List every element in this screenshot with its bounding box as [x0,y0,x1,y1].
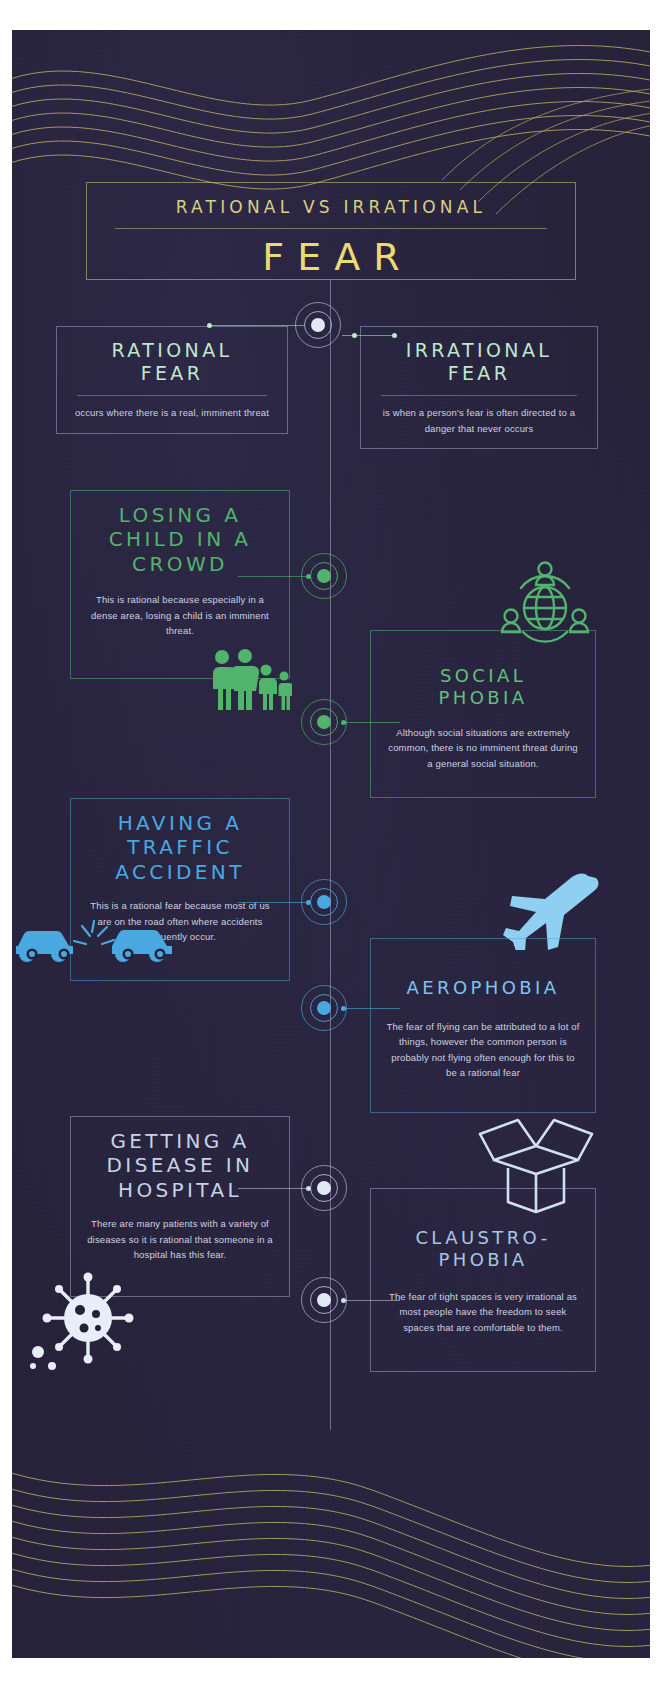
poster-canvas: RATIONAL VS IRRATIONAL FEAR RATIONAL FEA… [12,30,650,1658]
heading-line-2: PHOBIA [439,1249,528,1270]
virus-icon [26,1266,136,1378]
definition-body-rational: occurs where there is a real, imminent t… [71,405,273,420]
heading-line-2: FEAR [141,362,204,384]
irrational-card-aerophobia: AEROPHOBIA The fear of flying can be att… [370,938,596,1113]
irrational-heading-claustrophobia: CLAUSTRO- PHOBIA [385,1227,581,1271]
car-crash-icon [12,920,192,968]
heading-line-1: RATIONAL [111,339,232,361]
timeline-node-losing-child [301,553,347,599]
heading-line-2: FEAR [448,362,511,384]
card-divider [381,395,577,396]
connector-definition-right [342,335,396,336]
connector-definition-left [208,325,304,326]
definition-card-irrational: IRRATIONAL FEAR is when a person's fear … [360,326,598,449]
timeline-node-traffic-accident [301,879,347,925]
poster-title-box: RATIONAL VS IRRATIONAL FEAR [86,182,576,280]
heading-line-1: LOSING A [119,503,241,527]
rational-heading-losing-child: LOSING A CHILD IN A CROWD [85,503,275,576]
timeline-spine [330,280,331,1430]
connector-disease-hospital [238,1188,310,1189]
definition-heading-rational: RATIONAL FEAR [71,339,273,385]
heading-line-1: IRRATIONAL [406,339,553,361]
bottom-wave-decoration [12,1428,650,1658]
rational-heading-traffic-accident: HAVING A TRAFFIC ACCIDENT [85,811,275,884]
irrational-card-claustrophobia: CLAUSTRO- PHOBIA The fear of tight space… [370,1188,596,1372]
rational-heading-disease-hospital: GETTING A DISEASE IN HOSPITAL [85,1129,275,1202]
irrational-card-social-phobia: SOCIAL PHOBIA Although social situations… [370,630,596,798]
connector-aerophobia [342,1008,400,1009]
connector-claustrophobia [342,1300,400,1301]
timeline-node-disease-hospital [301,1165,347,1211]
definition-heading-irrational: IRRATIONAL FEAR [375,339,583,385]
irrational-body-claustrophobia: The fear of tight spaces is very irratio… [385,1289,581,1335]
card-divider [77,395,267,396]
irrational-body-aerophobia: The fear of flying can be attributed to … [385,1019,581,1081]
heading-line-1: SOCIAL [440,665,526,686]
connector-social-phobia [342,722,400,723]
heading-line-1: CLAUSTRO- [415,1227,550,1248]
title-divider [115,228,547,229]
heading-line-3: CROWD [132,552,228,576]
irrational-body-social-phobia: Although social situations are extremely… [385,725,581,771]
timeline-node-definitions [295,302,341,348]
rational-body-losing-child: This is rational because especially in a… [85,592,275,638]
irrational-heading-social-phobia: SOCIAL PHOBIA [385,665,581,709]
infographic-poster: RATIONAL VS IRRATIONAL FEAR RATIONAL FEA… [0,0,662,1690]
heading-line-2: CHILD IN A [109,527,252,551]
connector-losing-child [238,576,310,577]
rational-body-disease-hospital: There are many patients with a variety o… [85,1216,275,1262]
family-icon [200,648,292,714]
definition-body-irrational: is when a person's fear is often directe… [375,405,583,436]
definition-card-rational: RATIONAL FEAR occurs where there is a re… [56,326,288,434]
heading-line-2: DISEASE IN [107,1153,254,1177]
heading-line-3: HOSPITAL [118,1178,242,1202]
heading-line-2: TRAFFIC [127,835,233,859]
timeline-node-social-phobia [301,699,347,745]
page-title: FEAR [87,235,575,279]
heading-line-1: AEROPHOBIA [407,977,560,998]
timeline-node-aerophobia [301,985,347,1031]
heading-line-1: GETTING A [110,1129,249,1153]
poster-subtitle: RATIONAL VS IRRATIONAL [87,197,575,217]
heading-line-1: HAVING A [118,811,243,835]
irrational-heading-aerophobia: AEROPHOBIA [385,977,581,999]
timeline-node-claustrophobia [301,1277,347,1323]
heading-line-3: ACCIDENT [115,860,245,884]
heading-line-2: PHOBIA [439,687,528,708]
connector-traffic-accident [238,902,310,903]
